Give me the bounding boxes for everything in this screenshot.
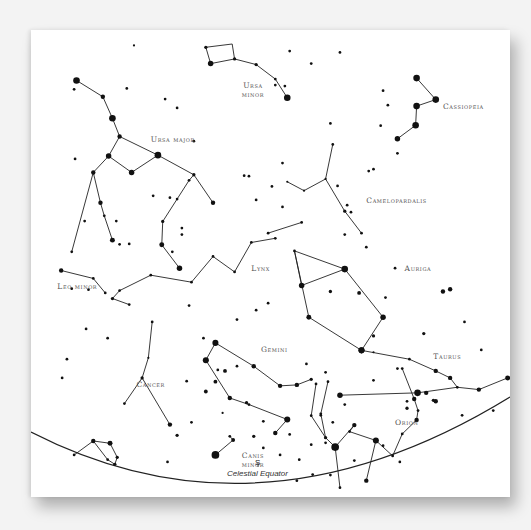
field-star [267,302,270,305]
ursa-major-star [192,173,195,176]
gemini-star [203,357,209,363]
field-star [125,87,128,90]
auriga-star [306,315,311,320]
lynx-star [128,303,131,306]
ursa-major-star [117,134,121,138]
auriga-label-line: Auriga [405,264,432,273]
camelopardalis-line [326,144,333,179]
orion-star [331,443,339,451]
field-star [283,85,286,88]
cancer-star [123,402,126,405]
celestial-equator-label: Celestial Equator [227,469,288,478]
ursa-minor-star [204,46,207,49]
orion-line [350,432,376,441]
field-star [394,267,397,270]
auriga-line [362,317,384,350]
field-star [66,358,69,361]
taurus-line [436,371,450,378]
lynx-star [233,271,236,274]
auriga-line [294,251,344,269]
camelopardalis-star [286,181,288,183]
south-direction-marker: S [255,458,260,467]
leo-minor-label-line: Leo Minor [57,282,97,291]
gemini-star [248,403,251,406]
field-star [339,51,342,54]
auriga-label: Auriga [405,264,432,273]
field-star [324,371,327,374]
field-star [213,380,217,384]
leo-minor-star [59,268,63,272]
canis-minor-star [231,438,235,442]
cassiopeia-star [432,96,439,103]
hydra-head-line [93,441,110,443]
lynx-star [190,281,193,284]
field-star [331,421,334,424]
ursa-major-star [155,152,162,159]
taurus-star [448,376,452,380]
cancer-star [168,422,172,426]
auriga-star [299,283,305,289]
lynx-line [112,299,129,305]
field-star [398,461,401,464]
field-star [324,441,327,444]
field-star [236,318,239,321]
field-star [405,407,408,410]
orion-star [364,478,368,482]
field-star [106,337,109,340]
ursa-major-label: Ursa Major [151,135,195,144]
orion-star [373,437,379,443]
ursa-major-line [162,221,163,244]
field-star [350,211,353,214]
orion-star [401,433,404,436]
field-star [185,380,188,383]
gemini-star [278,384,282,388]
field-star [262,420,265,423]
field-star [255,309,258,312]
taurus-star [408,358,411,361]
ursa-minor-star [284,94,291,101]
cassiopeia-star [413,103,420,110]
camelopardalis-label-line: Camelopardalis [366,196,427,205]
lynx-star [274,237,277,240]
field-star [164,98,167,101]
hydra-head-star [73,454,76,457]
taurus-label: Taurus [433,352,461,361]
auriga-star [372,334,375,337]
field-star [288,50,291,53]
field-star [346,204,349,207]
ursa-minor-star [208,61,214,67]
gemini-line [297,379,311,385]
field-star [311,473,314,476]
orion-line [402,369,414,399]
field-star [310,443,313,446]
canis-minor-label-line: Minor [242,460,264,469]
ursa-major-line [163,199,177,221]
ursa-major-line [132,155,158,172]
orion-star [412,397,416,401]
lynx-line [191,256,213,282]
field-star [190,421,193,424]
cassiopeia-star [413,75,420,82]
orion-star [401,367,404,370]
ursa-major-line [93,156,108,172]
taurus-star [434,369,438,373]
ursa-minor-label-line: Minor [242,90,264,99]
field-star [353,459,356,462]
constellation-lines-layer [61,44,507,488]
ursa-minor-line [232,44,234,59]
ursa-major-line [104,216,112,240]
cancer-label-line: Cancer [136,380,165,389]
field-star [281,206,284,209]
camelopardalis-star [267,232,270,235]
hydra-head-star [113,463,116,466]
orion-star [339,486,342,489]
ursa-major-label-line: Ursa Major [151,135,195,144]
field-star [382,444,385,447]
ursa-major-line [93,172,100,202]
ursa-major-line [72,172,94,251]
camelopardalis-star [324,178,326,180]
field-star [175,434,178,437]
cassiopeia-label-line: Cassiopeia [443,102,484,111]
field-star [279,454,282,457]
field-star [166,461,169,464]
